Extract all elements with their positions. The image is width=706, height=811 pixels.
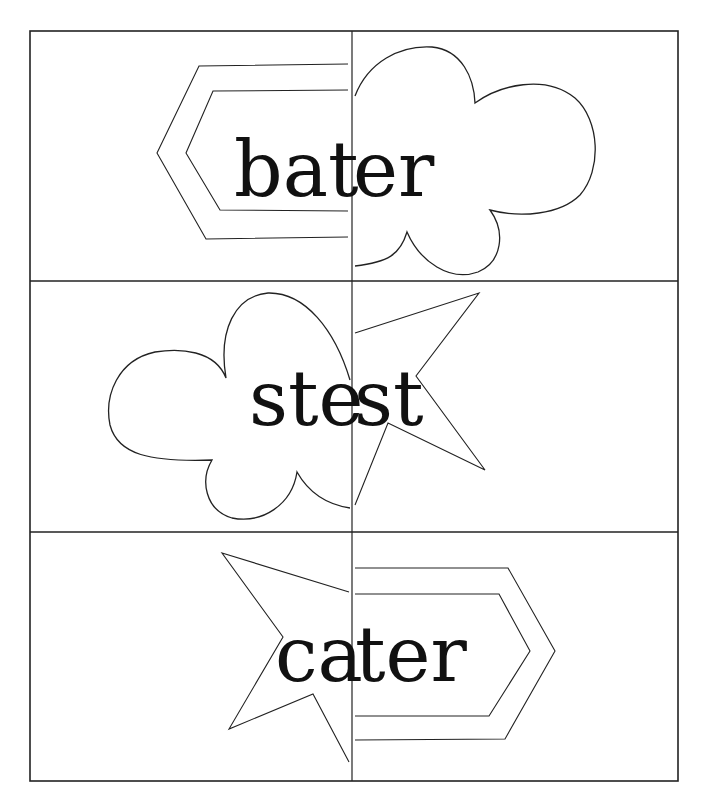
word-left-part: bat [234, 125, 359, 214]
word-left-part: ste [249, 354, 364, 443]
word-left-part: ca [275, 610, 363, 699]
word-right-part: ter [355, 610, 468, 699]
word-right-part: er [353, 125, 435, 214]
card-row-1: bat er [157, 47, 595, 275]
card-row-3: ca ter [222, 553, 555, 762]
card-row-2: ste st [109, 293, 485, 519]
word-right-part: st [354, 354, 424, 443]
puzzle-worksheet: bat er ste st ca ter [0, 0, 706, 811]
